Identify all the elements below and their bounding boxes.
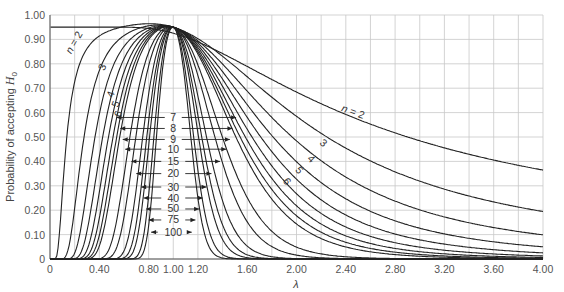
y-tick-label: 0.50 — [25, 131, 46, 143]
curve-label: n = 2 — [340, 102, 366, 121]
x-axis-ticks: 00.400.801.001.201.602.002.402.803.203.6… — [47, 263, 553, 275]
y-tick-label: 0 — [39, 253, 45, 265]
x-tick-label: 0.40 — [89, 263, 110, 275]
curve-label: n = 2 — [63, 29, 85, 56]
arrowhead-right — [190, 218, 195, 222]
y-tick-label: 0.10 — [25, 229, 46, 241]
x-tick-label: 1.00 — [163, 263, 184, 275]
x-tick-label: 2.40 — [336, 263, 357, 275]
y-axis-label: Probability of accepting H0 — [3, 71, 19, 201]
y-tick-label: 0.70 — [25, 82, 46, 94]
arrowhead-right — [225, 137, 230, 141]
x-tick-label: 2.80 — [385, 263, 406, 275]
x-tick-label: 0 — [47, 263, 53, 275]
y-tick-label: 0.90 — [25, 33, 46, 45]
x-tick-label: 4.00 — [533, 263, 554, 275]
curve-label: 5 — [293, 164, 306, 176]
arrowhead-right — [187, 230, 192, 234]
center-n-label: 20 — [167, 167, 179, 179]
y-tick-label: 1.00 — [25, 9, 46, 21]
center-n-label: 10 — [167, 143, 179, 155]
arrowhead-left — [151, 230, 156, 234]
x-tick-label: 2.00 — [286, 263, 307, 275]
oc-curve-chart: 00.400.801.001.201.602.002.402.803.203.6… — [0, 0, 564, 292]
center-n-label: 100 — [164, 226, 182, 238]
arrowhead-left — [144, 196, 149, 200]
y-tick-label: 0.60 — [25, 107, 46, 119]
curve-label: 4 — [104, 89, 117, 99]
y-tick-label: 0.40 — [25, 155, 46, 167]
curve-label: 4 — [305, 152, 318, 165]
x-axis-label: λ — [292, 278, 298, 290]
y-tick-label: 0.80 — [25, 58, 46, 70]
x-tick-label: 3.60 — [483, 263, 504, 275]
arrowhead-right — [215, 159, 220, 163]
y-axis-ticks: 00.100.200.300.400.500.600.700.800.901.0… — [25, 9, 46, 265]
x-tick-label: 1.60 — [237, 263, 258, 275]
curve-label: 3 — [318, 136, 330, 149]
arrowhead-left — [123, 137, 128, 141]
center-n-label: 75 — [167, 213, 179, 225]
x-tick-label: 0.80 — [138, 263, 159, 275]
x-tick-label: 1.20 — [188, 263, 209, 275]
y-tick-label: 0.30 — [25, 180, 46, 192]
x-tick-label: 3.20 — [434, 263, 455, 275]
center-n-label: 15 — [167, 155, 179, 167]
y-tick-label: 0.20 — [25, 204, 46, 216]
